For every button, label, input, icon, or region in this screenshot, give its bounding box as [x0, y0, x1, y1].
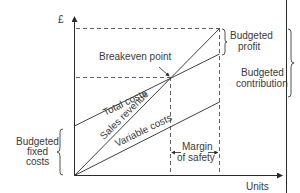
- contribution-brace-icon: [288, 29, 294, 97]
- breakeven-chart: £ Units Breakeven point Total costs Sale…: [0, 0, 300, 193]
- breakeven-pointer-icon: [159, 67, 169, 76]
- total-costs-line: [75, 54, 220, 126]
- profit-brace-icon: [222, 29, 227, 55]
- x-axis-label: Units: [246, 181, 269, 192]
- fixed-costs-label-3: costs: [26, 156, 49, 167]
- y-axis-label: £: [58, 14, 64, 25]
- variable-costs-line: [75, 102, 220, 176]
- budgeted-contribution-label-2: contribution: [236, 78, 288, 89]
- budgeted-profit-label-2: profit: [238, 41, 260, 52]
- margin-of-safety-label-2: of safety: [177, 152, 215, 163]
- chart-canvas: £ Units Breakeven point Total costs Sale…: [0, 0, 300, 193]
- margin-of-safety-label-1: Margin: [182, 141, 213, 152]
- budgeted-profit-label-1: Budgeted: [230, 30, 273, 41]
- budgeted-contribution-label-1: Budgeted: [241, 67, 284, 78]
- breakeven-label: Breakeven point: [99, 51, 171, 62]
